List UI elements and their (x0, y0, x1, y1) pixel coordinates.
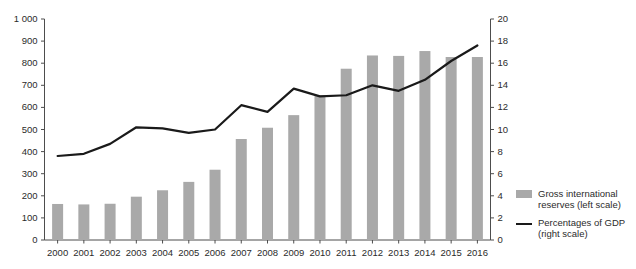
y-axis-right-tick-label: 20 (498, 14, 509, 24)
y-axis-right-tick-label: 12 (498, 102, 509, 112)
legend-item-gdp-label: Percentages of GDP (right scale) (538, 217, 625, 239)
bar-2016 (472, 57, 483, 240)
y-axis-left-tick-label: 700 (0, 80, 38, 90)
bar-2009 (288, 115, 299, 240)
bar-2013 (393, 56, 404, 240)
y-axis-left-tick-label: 600 (0, 102, 38, 112)
bar-2006 (210, 170, 221, 240)
bar-2000 (52, 204, 63, 240)
y-axis-left-tick-label: 100 (0, 213, 38, 223)
bar-2008 (262, 128, 273, 240)
legend-line-swatch-icon (516, 223, 532, 225)
y-axis-left-tick-label: 1 000 (0, 14, 38, 24)
y-axis-right-tick-label: 8 (498, 147, 503, 157)
legend-item-reserves-line1: Gross international (538, 188, 621, 199)
legend-item-gdp-line2: (right scale) (538, 228, 625, 239)
chart-legend: Gross international reserves (left scale… (516, 188, 636, 246)
legend-item-reserves: Gross international reserves (left scale… (516, 188, 636, 210)
bar-2005 (183, 182, 194, 240)
chart-container: 01002003004005006007008009001 0000246810… (0, 0, 636, 269)
y-axis-right-tick-label: 2 (498, 213, 503, 223)
y-axis-right-tick-label: 6 (498, 169, 503, 179)
y-axis-right-tick-label: 0 (498, 235, 503, 245)
y-axis-left-tick-label: 400 (0, 147, 38, 157)
bar-2003 (131, 197, 142, 240)
bar-2004 (157, 190, 168, 240)
bar-2002 (105, 204, 116, 240)
y-axis-right-tick-label: 14 (498, 80, 509, 90)
y-axis-left-tick-label: 300 (0, 169, 38, 179)
bar-2010 (314, 95, 325, 240)
x-axis-tick-label-2016: 2016 (460, 248, 494, 258)
y-axis-left-tick-label: 800 (0, 58, 38, 68)
bar-2007 (236, 139, 247, 240)
bar-2012 (367, 55, 378, 240)
y-axis-left-tick-label: 500 (0, 125, 38, 135)
y-axis-left-tick-label: 900 (0, 36, 38, 46)
legend-item-gdp: Percentages of GDP (right scale) (516, 217, 636, 239)
bar-2015 (446, 57, 457, 240)
bar-2001 (78, 204, 89, 240)
legend-item-reserves-line2: reserves (left scale) (538, 199, 621, 210)
y-axis-left-tick-label: 200 (0, 191, 38, 201)
y-axis-right-tick-label: 4 (498, 191, 503, 201)
y-axis-right-tick-label: 16 (498, 58, 509, 68)
y-axis-right-tick-label: 10 (498, 125, 509, 135)
legend-item-gdp-line1: Percentages of GDP (538, 217, 625, 228)
y-axis-left-tick-label: 0 (0, 235, 38, 245)
legend-item-reserves-label: Gross international reserves (left scale… (538, 188, 621, 210)
legend-bar-swatch-icon (516, 190, 532, 198)
y-axis-right-tick-label: 18 (498, 36, 509, 46)
